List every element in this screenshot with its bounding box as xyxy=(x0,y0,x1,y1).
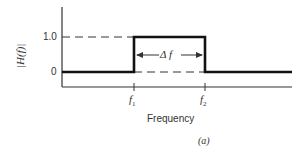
f2-label: f2 xyxy=(200,93,207,108)
delta-f-label: Δ f xyxy=(160,48,172,60)
arrowhead-left-icon xyxy=(136,52,143,58)
f1-label: f1 xyxy=(129,93,136,108)
y-tick-1: 1.0 xyxy=(43,31,57,42)
x-axis-label: Frequency xyxy=(147,113,194,124)
y-axis-label: |H(f)| xyxy=(14,44,26,68)
caption: (a) xyxy=(198,135,210,146)
response-curve xyxy=(62,37,292,72)
y-tick-0: 0 xyxy=(51,66,57,77)
arrowhead-right-icon xyxy=(196,52,203,58)
plot-area xyxy=(0,0,302,152)
